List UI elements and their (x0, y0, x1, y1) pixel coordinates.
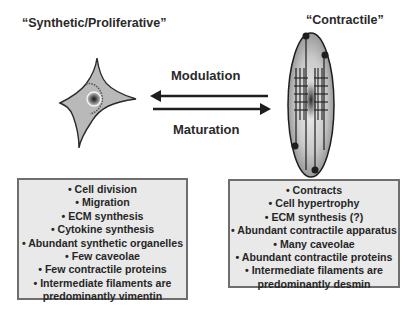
property-item: predominantly desmin (230, 278, 398, 291)
synthetic-properties-box: • Cell division • Migration • ECM synthe… (17, 178, 188, 300)
property-item: • Cell hypertrophy (230, 197, 398, 210)
property-item: • Intermediate filaments are (19, 277, 186, 290)
property-item: • Abundant contractile apparatus (230, 224, 398, 237)
modulation-arrow (150, 90, 268, 102)
property-item: • Cytokine synthesis (19, 223, 186, 236)
spindle-cell-icon (288, 33, 334, 178)
property-item: • Few caveolae (19, 250, 186, 263)
property-item: • Abundant contractile proteins (230, 251, 398, 264)
property-item: • Intermediate filaments are (230, 264, 398, 277)
property-item: • Many caveolae (230, 238, 398, 251)
stellate-cell-icon (60, 58, 136, 148)
property-item: • Few contractile proteins (19, 263, 186, 276)
property-item: • Abundant synthetic organelles (19, 237, 186, 250)
maturation-arrow (153, 103, 271, 115)
property-item: • ECM synthesis (19, 210, 186, 223)
property-item: predominantly vimentin (19, 290, 186, 303)
property-item: • Contracts (230, 184, 398, 197)
property-item: • Cell division (19, 183, 186, 196)
contractile-properties-box: • Contracts • Cell hypertrophy • ECM syn… (228, 179, 400, 288)
property-item: • ECM synthesis (?) (230, 211, 398, 224)
property-item: • Migration (19, 196, 186, 209)
